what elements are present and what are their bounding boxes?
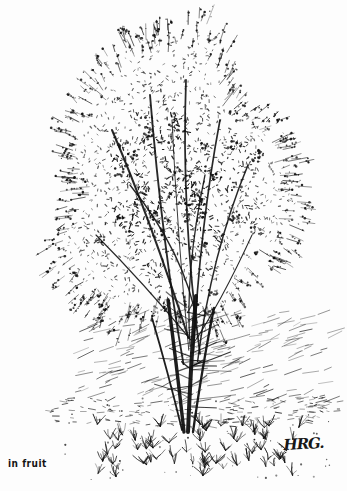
paper-background (0, 0, 347, 491)
tree-illustration (0, 0, 347, 491)
illustration-plate: in fruit HRG. (0, 0, 347, 491)
plate-caption: in fruit (8, 458, 47, 470)
artist-monogram: HRG. (283, 434, 324, 454)
